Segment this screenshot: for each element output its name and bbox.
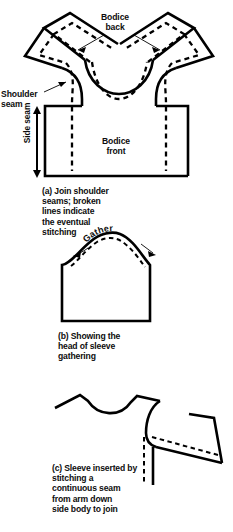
label-bodice-front: Bodice front bbox=[86, 136, 146, 156]
shoulder-seam-arrowhead bbox=[58, 82, 66, 87]
caption-figure-c: (c) Sleeve inserted by stitching a conti… bbox=[52, 463, 182, 514]
label-bodice-back: Bodice back bbox=[84, 12, 146, 32]
side-seam-arrow-down bbox=[33, 170, 41, 178]
right-side-seam bbox=[156, 106, 188, 176]
figure-b-sleeve-head bbox=[0, 222, 233, 330]
left-wing-lower-edge bbox=[25, 28, 62, 68]
figure-b-drawing bbox=[0, 222, 233, 330]
right-side-seam-stitch-dashed bbox=[165, 63, 172, 171]
right-wing-lower-stitch-dashed bbox=[172, 34, 199, 63]
figure-a-bodice: Bodice back Bodice front Shoulder seam S… bbox=[0, 0, 233, 185]
left-side-seam-stitch-dashed bbox=[66, 63, 73, 171]
sleeve-outline bbox=[62, 233, 150, 321]
bodice-shoulder-neckline bbox=[55, 395, 160, 413]
bodice-back-left-leader bbox=[78, 35, 104, 50]
label-side-seam: Side seam bbox=[22, 95, 32, 151]
continuous-seam-solid bbox=[156, 447, 222, 463]
left-wing-lower-stitch-dashed bbox=[39, 34, 66, 63]
bodice-back-right-leader bbox=[134, 35, 160, 50]
bodice-armhole-right bbox=[146, 401, 160, 447]
sleeve-seam-stitch-dashed bbox=[152, 437, 218, 455]
bottom-cropped-text bbox=[28, 523, 178, 530]
right-wing-lower-edge bbox=[176, 28, 213, 68]
caption-figure-b: (b) Showing the head of sleeve gathering bbox=[58, 331, 178, 362]
gather-stitch-dashed bbox=[71, 238, 145, 267]
diagram-page: Bodice back Bodice front Shoulder seam S… bbox=[0, 0, 233, 532]
